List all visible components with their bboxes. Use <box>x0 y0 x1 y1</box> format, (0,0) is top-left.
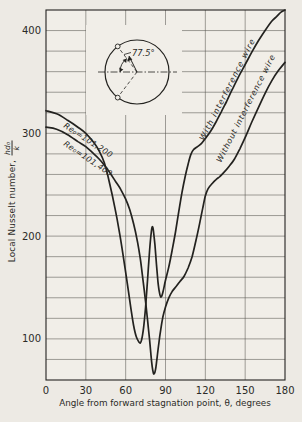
inset-angle-label: 77.5° <box>132 48 155 58</box>
upper-wire-marker <box>115 44 120 49</box>
fraction-denominator: k <box>13 146 21 151</box>
y-axis-fraction: hd₀ k <box>4 141 21 156</box>
x-axis-title: Angle from forward stagnation point, θ, … <box>59 398 271 408</box>
y-tick-label: 300 <box>22 128 41 139</box>
y-axis-title: Local Nusselt number, hd₀ k <box>4 96 21 306</box>
x-tick-label: 60 <box>119 385 132 396</box>
y-tick-label: 200 <box>22 231 41 242</box>
inset-cylinder-diagram: 77.5° <box>86 25 182 115</box>
x-tick-label: 90 <box>159 385 172 396</box>
inset-backdrop <box>86 25 182 115</box>
nusselt-chart: 77.5° 0306090120150180100200300400 Re₀=1… <box>0 0 302 422</box>
lower-wire-marker <box>115 95 120 100</box>
x-tick-label: 180 <box>275 385 294 396</box>
figure-page: 77.5° 0306090120150180100200300400 Re₀=1… <box>0 0 302 422</box>
x-tick-label: 120 <box>196 385 215 396</box>
y-tick-label: 100 <box>22 333 41 344</box>
y-axis-title-text: Local Nusselt number, <box>7 160 17 262</box>
x-tick-label: 30 <box>79 385 92 396</box>
x-tick-label: 150 <box>236 385 255 396</box>
y-tick-label: 400 <box>22 25 41 36</box>
x-tick-label: 0 <box>43 385 49 396</box>
